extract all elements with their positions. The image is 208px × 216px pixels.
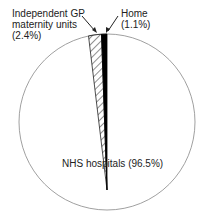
- arrowhead-home-icon: [106, 27, 110, 33]
- label-gp: Independent GP maternity units (2.4%): [12, 8, 85, 41]
- label-nhs-hospitals: NHS hospitals (96.5%): [62, 158, 163, 169]
- label-home: Home (1.1%): [121, 8, 150, 30]
